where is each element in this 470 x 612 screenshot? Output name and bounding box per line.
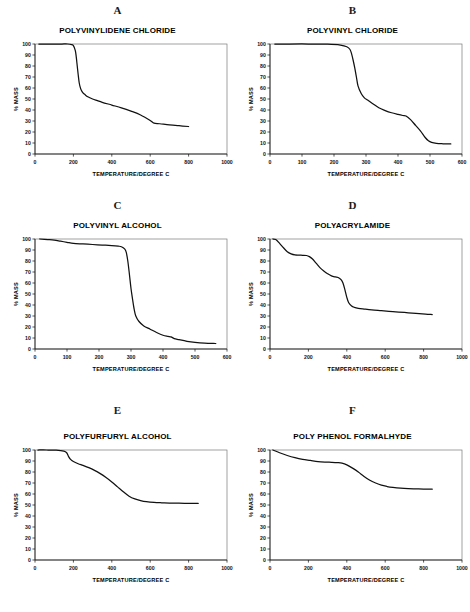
panel-c: C POLYVINYL ALCOHOL 01020304050607080901… xyxy=(0,199,235,386)
x-tick-label: 600 xyxy=(146,565,155,571)
x-tick-label: 200 xyxy=(69,565,78,571)
x-tick-label: 0 xyxy=(34,159,37,165)
y-tick-label: 50 xyxy=(25,96,31,102)
x-tick-label: 400 xyxy=(107,565,116,571)
y-tick-label: 60 xyxy=(260,491,266,497)
y-tick-label: 100 xyxy=(257,236,266,242)
y-tick-label: 80 xyxy=(260,63,266,69)
x-tick-label: 500 xyxy=(426,159,435,165)
panel-d: D POLYACRYLAMIDE 01020304050607080901000… xyxy=(235,199,470,386)
tga-curve xyxy=(273,239,432,315)
plot-svg-c: 0102030405060708090100010020030040050060… xyxy=(0,231,235,386)
y-tick-label: 60 xyxy=(260,85,266,91)
x-tick-label: 0 xyxy=(269,159,272,165)
x-tick-label: 800 xyxy=(419,354,428,360)
tga-curve xyxy=(273,450,432,489)
y-tick-label: 0 xyxy=(28,557,31,563)
panel-title-e: POLYFURFURYL ALCOHOL xyxy=(0,431,235,442)
y-tick-label: 70 xyxy=(25,269,31,275)
x-tick-label: 800 xyxy=(184,159,193,165)
y-tick-label: 10 xyxy=(260,335,266,341)
panel-letter-d: D xyxy=(235,199,470,212)
y-tick-label: 30 xyxy=(260,524,266,530)
plot-a: 010203040506070809010002004006008001000T… xyxy=(0,36,235,191)
y-tick-label: 100 xyxy=(22,41,31,47)
y-tick-label: 60 xyxy=(25,85,31,91)
x-axis-title: TEMPERATURE/DEGREE C xyxy=(328,577,405,583)
y-tick-label: 20 xyxy=(260,129,266,135)
y-tick-label: 40 xyxy=(260,107,266,113)
x-tick-label: 400 xyxy=(342,354,351,360)
panel-letter-a: A xyxy=(0,4,235,17)
plot-c: 0102030405060708090100010020030040050060… xyxy=(0,231,235,386)
y-tick-label: 100 xyxy=(22,236,31,242)
x-tick-label: 100 xyxy=(63,354,72,360)
y-tick-label: 80 xyxy=(260,258,266,264)
y-tick-label: 90 xyxy=(260,52,266,58)
y-tick-label: 70 xyxy=(260,74,266,80)
tga-curve xyxy=(38,450,198,503)
panel-e: E POLYFURFURYL ALCOHOL 01020304050607080… xyxy=(0,404,235,597)
plot-e: 010203040506070809010002004006008001000T… xyxy=(0,442,235,597)
x-tick-label: 200 xyxy=(95,354,104,360)
y-tick-label: 10 xyxy=(260,546,266,552)
y-tick-label: 80 xyxy=(25,258,31,264)
y-tick-label: 60 xyxy=(25,280,31,286)
panel-title-b: POLYVINYL CHLORIDE xyxy=(235,25,470,36)
x-tick-label: 300 xyxy=(362,159,371,165)
y-axis-title: % MASS xyxy=(13,282,19,306)
x-tick-label: 0 xyxy=(34,565,37,571)
y-axis-title: % MASS xyxy=(248,493,254,517)
x-tick-label: 0 xyxy=(269,565,272,571)
y-axis-title: % MASS xyxy=(248,87,254,111)
x-tick-label: 400 xyxy=(107,159,116,165)
y-tick-label: 30 xyxy=(260,118,266,124)
y-tick-label: 0 xyxy=(263,557,266,563)
x-tick-label: 200 xyxy=(69,159,78,165)
y-tick-label: 90 xyxy=(260,458,266,464)
x-tick-label: 600 xyxy=(381,565,390,571)
plot-b: 0102030405060708090100010020030040050060… xyxy=(235,36,470,191)
x-axis-title: TEMPERATURE/DEGREE C xyxy=(93,577,170,583)
x-axis-title: TEMPERATURE/DEGREE C xyxy=(328,171,405,177)
y-tick-label: 90 xyxy=(25,52,31,58)
x-axis-title: TEMPERATURE/DEGREE C xyxy=(93,171,170,177)
y-tick-label: 0 xyxy=(263,151,266,157)
x-tick-label: 400 xyxy=(159,354,168,360)
panel-b: B POLYVINYL CHLORIDE 0102030405060708090… xyxy=(235,4,470,191)
y-tick-label: 70 xyxy=(25,74,31,80)
y-tick-label: 80 xyxy=(25,63,31,69)
y-tick-label: 50 xyxy=(260,291,266,297)
x-tick-label: 500 xyxy=(191,354,200,360)
y-tick-label: 70 xyxy=(260,269,266,275)
plot-svg-d: 010203040506070809010002004006008001000T… xyxy=(235,231,470,386)
y-tick-label: 50 xyxy=(25,502,31,508)
x-tick-label: 100 xyxy=(298,159,307,165)
figure-sheet: A POLYVINYLIDENE CHLORIDE 01020304050607… xyxy=(0,0,470,612)
panel-title-d: POLYACRYLAMIDE xyxy=(235,220,470,231)
panel-title-c: POLYVINYL ALCOHOL xyxy=(0,220,235,231)
y-tick-label: 60 xyxy=(25,491,31,497)
plot-svg-e: 010203040506070809010002004006008001000T… xyxy=(0,442,235,597)
y-tick-label: 30 xyxy=(25,118,31,124)
y-tick-label: 20 xyxy=(25,535,31,541)
panel-title-a: POLYVINYLIDENE CHLORIDE xyxy=(0,25,235,36)
y-axis-title: % MASS xyxy=(13,87,19,111)
y-tick-label: 10 xyxy=(25,335,31,341)
y-tick-label: 20 xyxy=(25,324,31,330)
x-tick-label: 1000 xyxy=(456,565,468,571)
plot-f: 010203040506070809010002004006008001000T… xyxy=(235,442,470,597)
y-tick-label: 0 xyxy=(28,151,31,157)
panel-letter-f: F xyxy=(235,404,470,417)
y-tick-label: 0 xyxy=(263,346,266,352)
plot-svg-b: 0102030405060708090100010020030040050060… xyxy=(235,36,470,191)
y-tick-label: 80 xyxy=(260,469,266,475)
x-axis-title: TEMPERATURE/DEGREE C xyxy=(93,366,170,372)
y-tick-label: 70 xyxy=(260,480,266,486)
y-tick-label: 40 xyxy=(260,513,266,519)
y-tick-label: 40 xyxy=(260,302,266,308)
panel-letter-e: E xyxy=(0,404,235,417)
x-tick-label: 800 xyxy=(184,565,193,571)
y-tick-label: 40 xyxy=(25,302,31,308)
x-tick-label: 0 xyxy=(34,354,37,360)
